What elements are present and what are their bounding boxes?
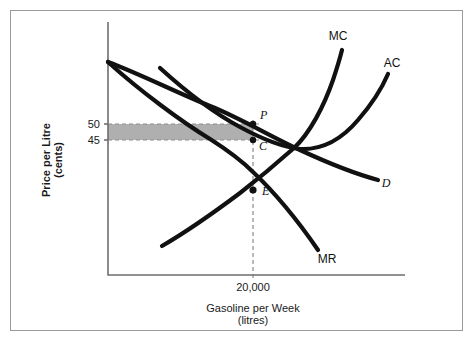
economics-chart: 50 45 20,000 MC AC D MR P C E Gasoline p… xyxy=(0,0,474,345)
y-axis-title-line2: (cents) xyxy=(52,142,64,178)
curve-label-mr: MR xyxy=(318,252,337,266)
y-tick-label-50: 50 xyxy=(88,118,100,130)
y-axis-title-line1: Price per Litre xyxy=(40,123,52,197)
x-tick-label-20000: 20,000 xyxy=(236,281,270,293)
curve-label-ac: AC xyxy=(384,56,401,70)
point-label-E: E xyxy=(261,184,270,198)
x-axis-title-line2: (litres) xyxy=(238,314,269,326)
curve-label-d: D xyxy=(381,176,391,190)
point-P-marker xyxy=(250,121,256,127)
economic-profit-rectangle xyxy=(108,124,253,140)
point-label-C: C xyxy=(259,139,268,153)
y-tick-label-45: 45 xyxy=(88,134,100,146)
point-C-marker xyxy=(250,137,256,143)
x-axis-title-line1: Gasoline per Week xyxy=(206,302,300,314)
point-label-P: P xyxy=(259,108,268,122)
curve-label-mc: MC xyxy=(329,29,348,43)
chart-axes xyxy=(108,22,405,275)
point-E-marker xyxy=(249,186,256,193)
